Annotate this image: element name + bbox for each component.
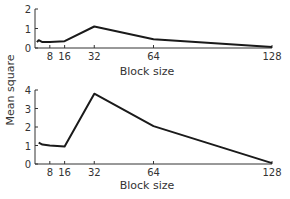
- top-chart: 0128163264128Block size: [25, 4, 282, 78]
- y-tick-label: 3: [25, 104, 31, 115]
- x-tick-label: 64: [147, 167, 160, 178]
- x-tick-label: 128: [262, 51, 281, 62]
- x-tick-label: 16: [58, 167, 71, 178]
- x-tick-label: 8: [47, 167, 53, 178]
- y-tick-label: 0: [25, 159, 31, 170]
- x-axis-title: Block size: [120, 179, 175, 192]
- figure: 0128163264128Block size 012348163264128B…: [0, 0, 290, 199]
- x-tick-label: 16: [58, 51, 71, 62]
- bottom-chart: 012348163264128Block size: [25, 85, 282, 192]
- y-tick-label: 0: [25, 43, 31, 54]
- y-tick-label: 1: [25, 141, 31, 152]
- y-tick-label: 4: [25, 85, 31, 96]
- y-tick-label: 1: [25, 24, 31, 35]
- x-tick-label: 128: [262, 167, 281, 178]
- y-tick-label: 2: [25, 4, 31, 15]
- data-line: [39, 94, 272, 163]
- x-tick-label: 32: [88, 51, 101, 62]
- x-tick-label: 8: [47, 51, 53, 62]
- data-line: [37, 27, 272, 48]
- y-axis-title: Mean square: [4, 54, 17, 125]
- x-axis-title: Block size: [120, 65, 175, 78]
- y-tick-label: 2: [25, 122, 31, 133]
- x-tick-label: 32: [88, 167, 101, 178]
- x-tick-label: 64: [147, 51, 160, 62]
